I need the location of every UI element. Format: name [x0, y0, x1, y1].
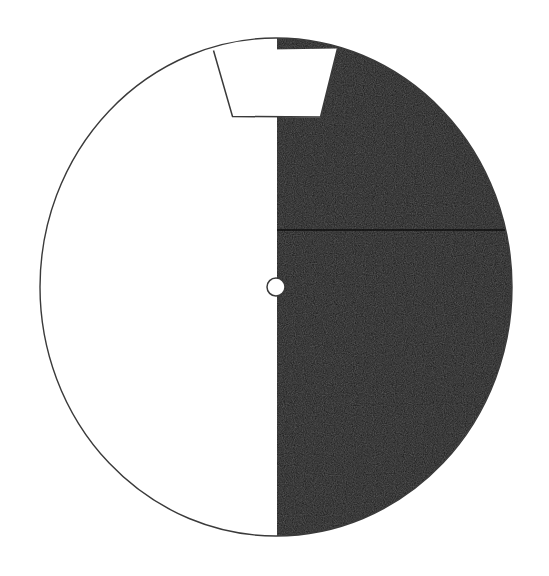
- center-hub-hole: [267, 278, 285, 296]
- disc-figure: Sectored rotating disc A circular disc d…: [0, 0, 549, 576]
- figure-root: Sectored rotating disc A circular disc d…: [0, 0, 549, 576]
